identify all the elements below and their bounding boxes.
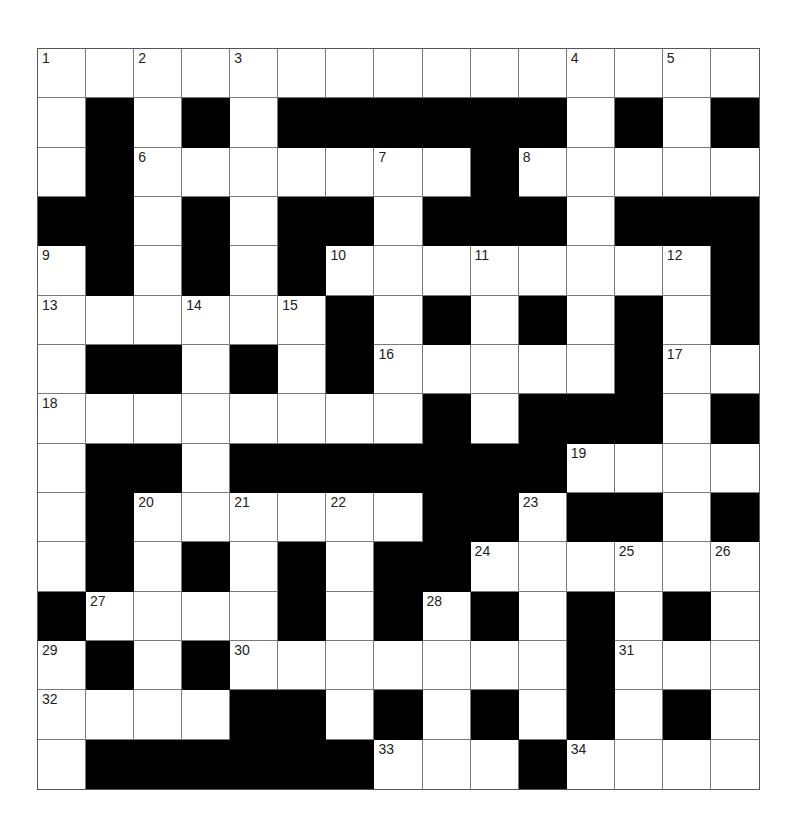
grid-cell[interactable] — [38, 148, 86, 197]
grid-cell[interactable] — [182, 690, 230, 739]
grid-cell[interactable] — [423, 690, 471, 739]
grid-cell[interactable]: 33 — [374, 740, 422, 789]
grid-cell[interactable] — [230, 98, 278, 147]
grid-cell[interactable] — [423, 246, 471, 295]
grid-cell[interactable] — [663, 542, 711, 591]
grid-cell[interactable] — [182, 444, 230, 493]
grid-cell[interactable] — [519, 592, 567, 641]
grid-cell[interactable] — [278, 49, 326, 98]
grid-cell[interactable] — [615, 49, 663, 98]
grid-cell[interactable] — [663, 493, 711, 542]
grid-cell[interactable] — [182, 345, 230, 394]
grid-cell[interactable] — [471, 345, 519, 394]
grid-cell[interactable]: 24 — [471, 542, 519, 591]
grid-cell[interactable] — [423, 148, 471, 197]
grid-cell[interactable] — [38, 444, 86, 493]
grid-cell[interactable] — [615, 740, 663, 789]
grid-cell[interactable] — [374, 197, 422, 246]
grid-cell[interactable]: 2 — [134, 49, 182, 98]
grid-cell[interactable] — [278, 148, 326, 197]
grid-cell[interactable] — [230, 592, 278, 641]
grid-cell[interactable]: 1 — [38, 49, 86, 98]
grid-cell[interactable] — [567, 542, 615, 591]
grid-cell[interactable] — [374, 641, 422, 690]
grid-cell[interactable] — [423, 345, 471, 394]
grid-cell[interactable]: 3 — [230, 49, 278, 98]
grid-cell[interactable] — [519, 246, 567, 295]
grid-cell[interactable]: 23 — [519, 493, 567, 542]
grid-cell[interactable] — [711, 345, 759, 394]
grid-cell[interactable] — [86, 296, 134, 345]
grid-cell[interactable]: 15 — [278, 296, 326, 345]
grid-cell[interactable] — [230, 246, 278, 295]
grid-cell[interactable]: 6 — [134, 148, 182, 197]
grid-cell[interactable] — [134, 246, 182, 295]
grid-cell[interactable] — [230, 296, 278, 345]
grid-cell[interactable] — [663, 641, 711, 690]
grid-cell[interactable]: 29 — [38, 641, 86, 690]
grid-cell[interactable]: 25 — [615, 542, 663, 591]
grid-cell[interactable]: 27 — [86, 592, 134, 641]
grid-cell[interactable] — [278, 394, 326, 443]
grid-cell[interactable] — [134, 542, 182, 591]
grid-cell[interactable] — [711, 641, 759, 690]
grid-cell[interactable] — [230, 394, 278, 443]
grid-cell[interactable] — [519, 542, 567, 591]
grid-cell[interactable]: 10 — [326, 246, 374, 295]
grid-cell[interactable] — [230, 197, 278, 246]
grid-cell[interactable] — [663, 148, 711, 197]
grid-cell[interactable]: 8 — [519, 148, 567, 197]
grid-cell[interactable] — [711, 592, 759, 641]
grid-cell[interactable] — [326, 394, 374, 443]
grid-cell[interactable] — [471, 49, 519, 98]
grid-cell[interactable] — [374, 296, 422, 345]
grid-cell[interactable] — [519, 641, 567, 690]
grid-cell[interactable] — [663, 444, 711, 493]
grid-cell[interactable] — [374, 246, 422, 295]
grid-cell[interactable] — [326, 690, 374, 739]
grid-cell[interactable] — [567, 197, 615, 246]
grid-cell[interactable] — [230, 542, 278, 591]
grid-cell[interactable] — [182, 49, 230, 98]
grid-cell[interactable] — [86, 49, 134, 98]
grid-cell[interactable] — [326, 148, 374, 197]
grid-cell[interactable] — [230, 148, 278, 197]
grid-cell[interactable] — [374, 493, 422, 542]
grid-cell[interactable]: 19 — [567, 444, 615, 493]
grid-cell[interactable] — [134, 197, 182, 246]
grid-cell[interactable]: 17 — [663, 345, 711, 394]
grid-cell[interactable]: 30 — [230, 641, 278, 690]
grid-cell[interactable] — [423, 740, 471, 789]
grid-cell[interactable] — [423, 49, 471, 98]
grid-cell[interactable]: 9 — [38, 246, 86, 295]
grid-cell[interactable]: 14 — [182, 296, 230, 345]
grid-cell[interactable] — [278, 493, 326, 542]
grid-cell[interactable] — [567, 296, 615, 345]
grid-cell[interactable] — [326, 49, 374, 98]
grid-cell[interactable] — [663, 296, 711, 345]
grid-cell[interactable] — [663, 740, 711, 789]
grid-cell[interactable] — [567, 98, 615, 147]
grid-cell[interactable] — [711, 148, 759, 197]
grid-cell[interactable]: 18 — [38, 394, 86, 443]
grid-cell[interactable] — [711, 690, 759, 739]
grid-cell[interactable] — [38, 345, 86, 394]
grid-cell[interactable] — [615, 592, 663, 641]
grid-cell[interactable] — [615, 444, 663, 493]
grid-cell[interactable]: 28 — [423, 592, 471, 641]
grid-cell[interactable] — [374, 49, 422, 98]
grid-cell[interactable] — [615, 148, 663, 197]
grid-cell[interactable] — [567, 148, 615, 197]
grid-cell[interactable] — [519, 49, 567, 98]
grid-cell[interactable] — [134, 641, 182, 690]
grid-cell[interactable] — [182, 592, 230, 641]
grid-cell[interactable] — [134, 690, 182, 739]
grid-cell[interactable]: 34 — [567, 740, 615, 789]
grid-cell[interactable] — [326, 641, 374, 690]
grid-cell[interactable] — [182, 493, 230, 542]
grid-cell[interactable] — [278, 641, 326, 690]
grid-cell[interactable]: 7 — [374, 148, 422, 197]
grid-cell[interactable] — [86, 690, 134, 739]
grid-cell[interactable] — [182, 148, 230, 197]
grid-cell[interactable] — [134, 592, 182, 641]
